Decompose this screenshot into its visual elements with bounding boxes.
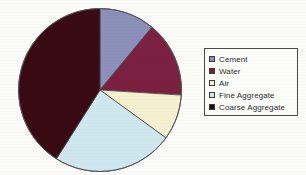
legend-swatch-water xyxy=(209,68,215,74)
legend-label-water: Water xyxy=(219,67,241,76)
pie-chart-figure: Cement Water Air Fine Aggregate Coarse A… xyxy=(0,0,306,175)
legend-swatch-air xyxy=(209,80,215,86)
legend-item-cement[interactable]: Cement xyxy=(209,53,294,65)
legend-label-fine-aggregate: Fine Aggregate xyxy=(219,91,275,100)
pie-chart-plot-area xyxy=(16,4,184,172)
legend-swatch-fine-aggregate xyxy=(209,92,215,98)
legend-label-coarse-aggregate: Coarse Aggregate xyxy=(219,103,285,112)
legend-item-fine-aggregate[interactable]: Fine Aggregate xyxy=(209,89,294,101)
legend-swatch-coarse-aggregate xyxy=(209,104,215,110)
pie-svg xyxy=(16,4,184,172)
legend-item-air[interactable]: Air xyxy=(209,77,294,89)
legend-label-cement: Cement xyxy=(219,55,248,64)
legend-item-water[interactable]: Water xyxy=(209,65,294,77)
chart-legend: Cement Water Air Fine Aggregate Coarse A… xyxy=(204,48,298,116)
legend-swatch-cement xyxy=(209,56,215,62)
legend-item-coarse-aggregate[interactable]: Coarse Aggregate xyxy=(209,101,294,113)
pie-slices-group xyxy=(19,9,182,172)
legend-label-air: Air xyxy=(219,79,229,88)
